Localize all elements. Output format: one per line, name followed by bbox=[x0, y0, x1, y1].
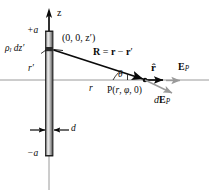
source-point-label: (0, 0, z′) bbox=[62, 33, 95, 43]
minus-sign: − bbox=[115, 46, 126, 57]
theta-label: θ bbox=[118, 70, 123, 80]
dE-subscript: P bbox=[166, 98, 170, 106]
r-prime-label: r′ bbox=[28, 64, 34, 74]
field-point-label: P(r, φ, 0) bbox=[107, 86, 142, 96]
E-subscript: P bbox=[185, 65, 189, 73]
z-axis-label: z bbox=[57, 8, 61, 18]
P-close: , 0) bbox=[129, 85, 142, 95]
r-hat-label: r̂ bbox=[151, 62, 156, 73]
dE-P-arrow bbox=[145, 80, 172, 93]
charge-element-label: ρl dz′ bbox=[5, 44, 24, 54]
rod-bottom-label: −a bbox=[27, 149, 38, 159]
r-label: r bbox=[89, 84, 93, 94]
charge-element-slab bbox=[46, 47, 54, 51]
R-vector-label: R = r − r′ bbox=[93, 47, 133, 57]
rod-width-label: d bbox=[71, 124, 76, 134]
dz-prime: ′ bbox=[22, 43, 24, 53]
equals-sign: = bbox=[100, 46, 111, 57]
dE-symbol: E bbox=[159, 94, 166, 105]
dE-P-label: dEP bbox=[154, 95, 170, 106]
rod-top-label: +a bbox=[27, 26, 38, 36]
dz-symbol: dz bbox=[11, 43, 22, 53]
E-symbol: E bbox=[178, 61, 185, 72]
r-source-prime: ′ bbox=[130, 46, 132, 57]
E-P-label: EP bbox=[178, 62, 189, 73]
